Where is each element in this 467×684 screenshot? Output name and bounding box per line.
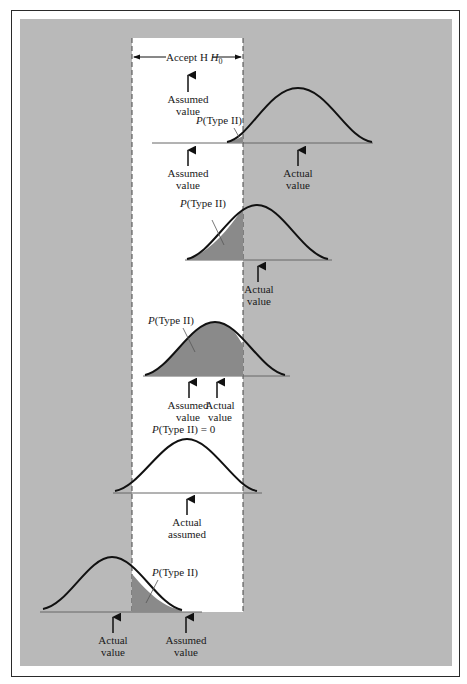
panel-1-actual-label: Actualvalue (278, 167, 318, 191)
type-ii-error-diagram (0, 0, 467, 684)
panel-1-assumed-label: Assumedvalue (163, 167, 213, 191)
panel-5-actual-label: Actualvalue (93, 634, 133, 658)
panel-4-p-label: P(Type II) = 0 (152, 423, 215, 435)
panel-5-p-label: P(Type II) (152, 566, 198, 578)
panel-1-p-label: P(Type II) (196, 114, 242, 126)
panel-3-p-label: P(Type II) (148, 314, 194, 326)
panel-3-actual-label: Actualvalue (203, 399, 237, 423)
panel-4-actual-label: Actualassumed (162, 516, 212, 540)
panel-5-assumed-label: Assumedvalue (161, 634, 211, 658)
panel-2-actual-label: Actualvalue (239, 283, 279, 307)
panel-2-p-label: P(Type II) (180, 197, 226, 209)
accept-h0-label: Accept H H0 (166, 51, 212, 68)
